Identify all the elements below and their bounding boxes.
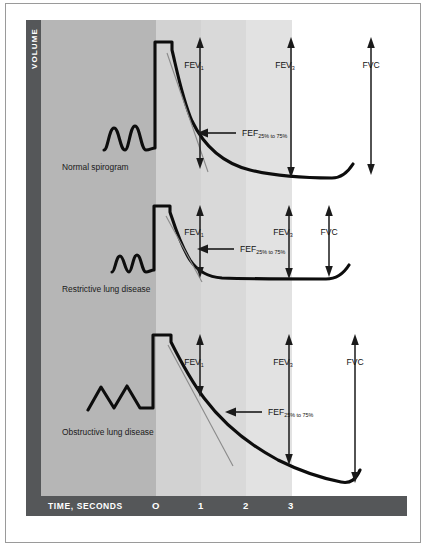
label-fev3-restrictive: FEV3 bbox=[273, 227, 293, 238]
curve-restrictive bbox=[112, 206, 349, 279]
arrow-fev1-normal bbox=[196, 37, 204, 169]
label-fev3-normal: FEV3 bbox=[275, 60, 295, 71]
time-tick-1: 1 bbox=[198, 500, 203, 511]
curve-obstructive bbox=[88, 335, 360, 482]
label-fev3-obstructive: FEV3 bbox=[273, 357, 293, 368]
label-fev1-normal: FEV1 bbox=[184, 60, 204, 71]
time-tick-2: 2 bbox=[243, 500, 248, 511]
curve-normal bbox=[104, 42, 353, 178]
arrow-fef-restrictive bbox=[197, 245, 234, 254]
figure-frame: VOLUME bbox=[5, 3, 421, 543]
label-fev1-restrictive: FEV1 bbox=[184, 227, 204, 238]
time-tick-0: O bbox=[152, 500, 159, 511]
panel-title-obstructive: Obstructive lung disease bbox=[62, 427, 154, 437]
label-fvc-normal: FVC bbox=[362, 60, 379, 70]
label-fef-restrictive: FEF25% to 75% bbox=[240, 244, 286, 255]
arrow-fvc-restrictive bbox=[325, 205, 333, 277]
plot-area: VOLUME bbox=[26, 20, 407, 532]
label-fvc-obstructive: FVC bbox=[346, 357, 363, 367]
panel-title-restrictive: Restrictive lung disease bbox=[62, 284, 151, 294]
label-fev1-obstructive: FEV1 bbox=[184, 357, 204, 368]
panel-restrictive: FEV1 FEV3 FVC FEF25% to 75% Restrictive … bbox=[62, 205, 349, 294]
arrow-fev3-restrictive bbox=[285, 205, 293, 279]
arrow-fev3-obstructive bbox=[285, 334, 293, 465]
tangent-restrictive bbox=[166, 216, 202, 282]
arrow-fev1-restrictive bbox=[196, 205, 204, 278]
label-fef-obstructive: FEF25% to 75% bbox=[268, 407, 314, 418]
spirogram-curves: FEV1 FEV3 FVC FEF25% to 75% Normal spiro… bbox=[26, 20, 407, 496]
spirometry-figure: VOLUME bbox=[0, 0, 428, 551]
panel-obstructive: FEV1 FEV3 FVC FEF25% to 75% Obstructive … bbox=[62, 334, 364, 483]
label-fvc-restrictive: FVC bbox=[320, 227, 337, 237]
arrow-fev3-normal bbox=[287, 37, 295, 178]
panel-normal: FEV1 FEV3 FVC FEF25% to 75% Normal spiro… bbox=[62, 37, 380, 178]
time-axis-bar: TIME, SECONDS O 1 2 3 bbox=[26, 496, 407, 516]
panel-title-normal: Normal spirogram bbox=[62, 162, 129, 172]
arrow-fvc-normal bbox=[367, 37, 375, 175]
label-fef-normal: FEF25% to 75% bbox=[242, 128, 288, 139]
arrow-fef-obstructive bbox=[225, 408, 262, 417]
arrow-fef-normal bbox=[197, 129, 236, 138]
time-axis-label: TIME, SECONDS bbox=[48, 501, 123, 511]
time-tick-3: 3 bbox=[288, 500, 293, 511]
